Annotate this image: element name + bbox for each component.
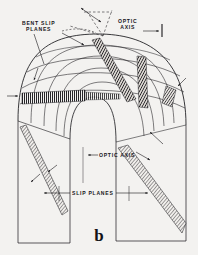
left-leg-slip-band: [20, 125, 68, 215]
label-bent-slip-planes-line2: PLANES: [26, 26, 51, 32]
left-slip-band: [22, 90, 85, 104]
inner-arch-curve: [70, 97, 116, 142]
apex-optic-axis-fan: [70, 10, 112, 36]
label-optic-axis-middle: OPTIC AXIS: [99, 152, 135, 158]
figure-caption: b: [0, 226, 198, 246]
label-slip-planes: SLIP PLANES: [72, 190, 114, 196]
diagram-drawing: [0, 0, 198, 255]
label-optic-axis-top-line2: AXIS: [120, 24, 135, 30]
label-bent-slip-planes: BENT SLIP PLANES: [22, 20, 55, 32]
label-optic-axis-top-line1: OPTIC: [118, 18, 137, 24]
label-optic-axis-top: OPTIC AXIS: [118, 18, 137, 30]
figure-container: BENT SLIP PLANES OPTIC AXIS OPTIC AXIS S…: [0, 0, 198, 255]
label-bent-slip-planes-line1: BENT SLIP: [22, 20, 55, 26]
